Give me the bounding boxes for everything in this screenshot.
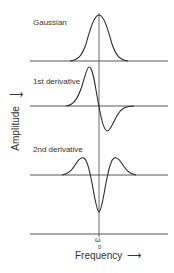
amplitude-label-text: Amplitude: [10, 106, 21, 150]
amplitude-axis-label: Amplitude ⟶: [10, 84, 24, 154]
lineshape-diagram: [0, 0, 174, 273]
arrow-up-icon: ⟶: [9, 89, 23, 100]
frequency-label-text: Frequency: [75, 250, 122, 261]
omega0-symbol: ω: [95, 236, 100, 243]
gaussian-label: Gaussian: [33, 18, 67, 27]
arrow-right-icon: ⟶: [127, 250, 141, 261]
second-derivative-label: 2nd derivative: [33, 145, 83, 154]
frequency-axis-label: Frequency ⟶: [75, 250, 141, 261]
first-derivative-label: 1st derivative: [33, 77, 80, 86]
